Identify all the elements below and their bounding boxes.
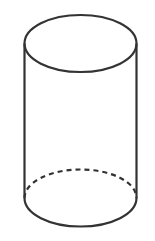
- cylinder-bottom-hidden-arc: [25, 170, 137, 199]
- cylinder-top-face: [25, 15, 137, 72]
- cylinder-svg: [0, 0, 155, 241]
- cylinder-diagram: [0, 0, 155, 241]
- cylinder-bottom-front-arc: [25, 198, 137, 227]
